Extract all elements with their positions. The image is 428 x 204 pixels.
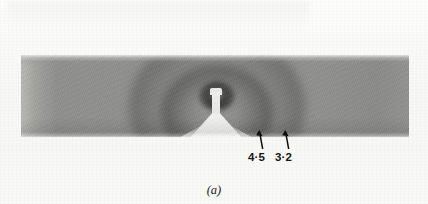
film-grain-texture <box>21 55 409 137</box>
figure-panel: 4·5 3·2 (a) <box>0 0 428 204</box>
up-arrow-icon <box>277 127 293 149</box>
figure-caption: (a) <box>0 184 428 197</box>
diffraction-photograph <box>21 55 409 137</box>
marker-label-3-2: 3·2 <box>275 152 292 164</box>
scan-smudge <box>8 2 308 28</box>
marker-label-4-5: 4·5 <box>248 152 265 164</box>
up-arrow-icon <box>251 127 267 149</box>
